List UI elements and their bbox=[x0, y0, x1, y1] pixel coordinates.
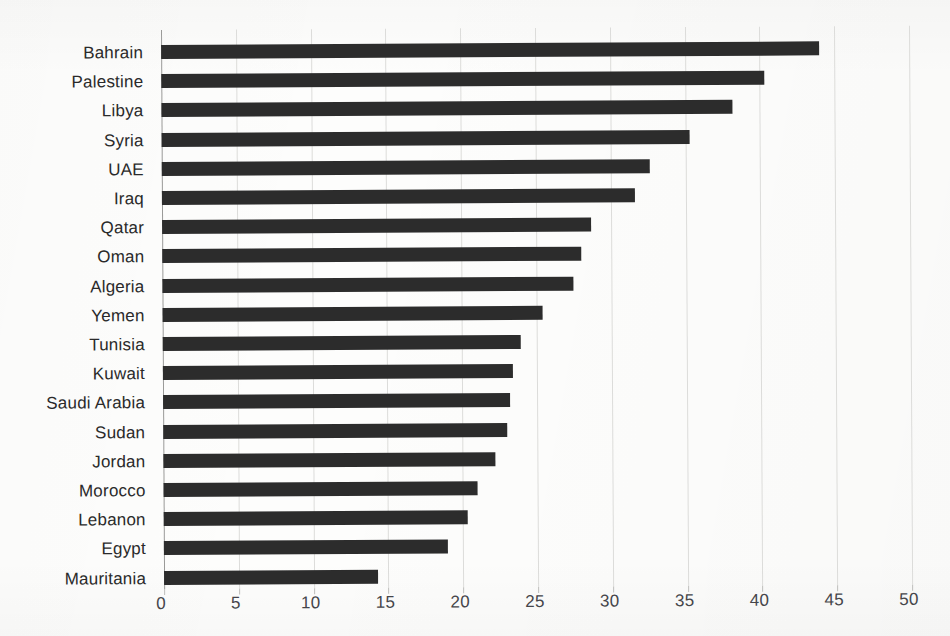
category-label-algeria: Algeria bbox=[90, 272, 144, 301]
bar-qatar[interactable] bbox=[162, 218, 591, 234]
value-tick-label-20: 20 bbox=[450, 592, 470, 612]
category-label-yemen: Yemen bbox=[91, 301, 144, 330]
category-label-egypt: Egypt bbox=[101, 534, 146, 563]
bar-row bbox=[163, 443, 911, 476]
category-label-uae: UAE bbox=[108, 155, 144, 184]
value-tick-label-45: 45 bbox=[824, 590, 844, 610]
bar-uae[interactable] bbox=[162, 159, 650, 176]
plot-area bbox=[161, 26, 912, 589]
bar-row bbox=[163, 413, 911, 446]
bar-row bbox=[162, 180, 910, 213]
category-label-morocco: Morocco bbox=[79, 476, 146, 506]
bar-sudan[interactable] bbox=[163, 423, 507, 439]
bar-mauritania[interactable] bbox=[164, 569, 378, 584]
category-label-palestine: Palestine bbox=[71, 67, 143, 97]
category-label-tunisia: Tunisia bbox=[89, 330, 145, 359]
bar-row bbox=[161, 92, 909, 125]
bar-row bbox=[162, 267, 910, 300]
category-label-sudan: Sudan bbox=[95, 418, 145, 447]
bar-jordan[interactable] bbox=[163, 452, 495, 468]
bar-morocco[interactable] bbox=[164, 481, 478, 497]
category-label-libya: Libya bbox=[102, 96, 144, 125]
chart-page: BahrainPalestineLibyaSyriaUAEIraqQatarOm… bbox=[0, 0, 950, 636]
bar-saudi-arabia[interactable] bbox=[163, 393, 510, 409]
category-label-bahrain: Bahrain bbox=[83, 38, 143, 68]
value-tick-label-50: 50 bbox=[899, 590, 919, 610]
bar-row bbox=[163, 355, 911, 388]
value-tick-label-25: 25 bbox=[525, 592, 545, 612]
bar-row bbox=[162, 209, 910, 242]
bar-row bbox=[163, 384, 911, 417]
value-tick-label-30: 30 bbox=[600, 591, 620, 611]
category-label-lebanon: Lebanon bbox=[78, 505, 146, 535]
bar-row bbox=[162, 121, 910, 154]
bar-oman[interactable] bbox=[162, 247, 581, 263]
bar-yemen[interactable] bbox=[163, 306, 543, 322]
bar-algeria[interactable] bbox=[162, 276, 573, 292]
bar-kuwait[interactable] bbox=[163, 364, 513, 380]
category-axis-labels: BahrainPalestineLibyaSyriaUAEIraqQatarOm… bbox=[0, 30, 155, 590]
bar-row bbox=[164, 559, 912, 592]
category-label-syria: Syria bbox=[104, 126, 144, 155]
value-tick-label-35: 35 bbox=[675, 591, 695, 611]
bar-tunisia[interactable] bbox=[163, 335, 521, 351]
bar-bahrain[interactable] bbox=[161, 41, 819, 59]
bar-egypt[interactable] bbox=[164, 540, 448, 556]
value-tick-label-40: 40 bbox=[750, 591, 770, 611]
bar-syria[interactable] bbox=[162, 130, 690, 147]
category-label-oman: Oman bbox=[97, 242, 144, 271]
value-tick-label-15: 15 bbox=[376, 593, 396, 613]
bar-row bbox=[161, 34, 909, 67]
bar-lebanon[interactable] bbox=[164, 510, 468, 526]
bar-row bbox=[162, 151, 910, 184]
category-label-jordan: Jordan bbox=[92, 447, 145, 476]
bars-group bbox=[161, 26, 912, 589]
value-tick-label-10: 10 bbox=[301, 593, 321, 613]
value-tick-label-5: 5 bbox=[231, 594, 241, 614]
bar-libya[interactable] bbox=[161, 100, 733, 117]
value-tick-label-0: 0 bbox=[156, 594, 166, 614]
category-label-mauritania: Mauritania bbox=[65, 564, 147, 594]
bar-row bbox=[162, 238, 910, 271]
bar-row bbox=[163, 326, 911, 359]
bar-row bbox=[163, 472, 911, 505]
category-label-qatar: Qatar bbox=[100, 213, 144, 242]
bar-row bbox=[163, 297, 911, 330]
category-label-kuwait: Kuwait bbox=[93, 359, 145, 388]
bar-row bbox=[161, 63, 909, 96]
value-axis-labels: 05101520253035404550 bbox=[161, 590, 909, 624]
bar-iraq[interactable] bbox=[162, 188, 635, 205]
bar-row bbox=[164, 501, 912, 534]
category-label-saudi-arabia: Saudi Arabia bbox=[46, 388, 145, 418]
bar-row bbox=[164, 530, 912, 563]
category-label-iraq: Iraq bbox=[114, 184, 144, 213]
bar-palestine[interactable] bbox=[161, 71, 764, 88]
